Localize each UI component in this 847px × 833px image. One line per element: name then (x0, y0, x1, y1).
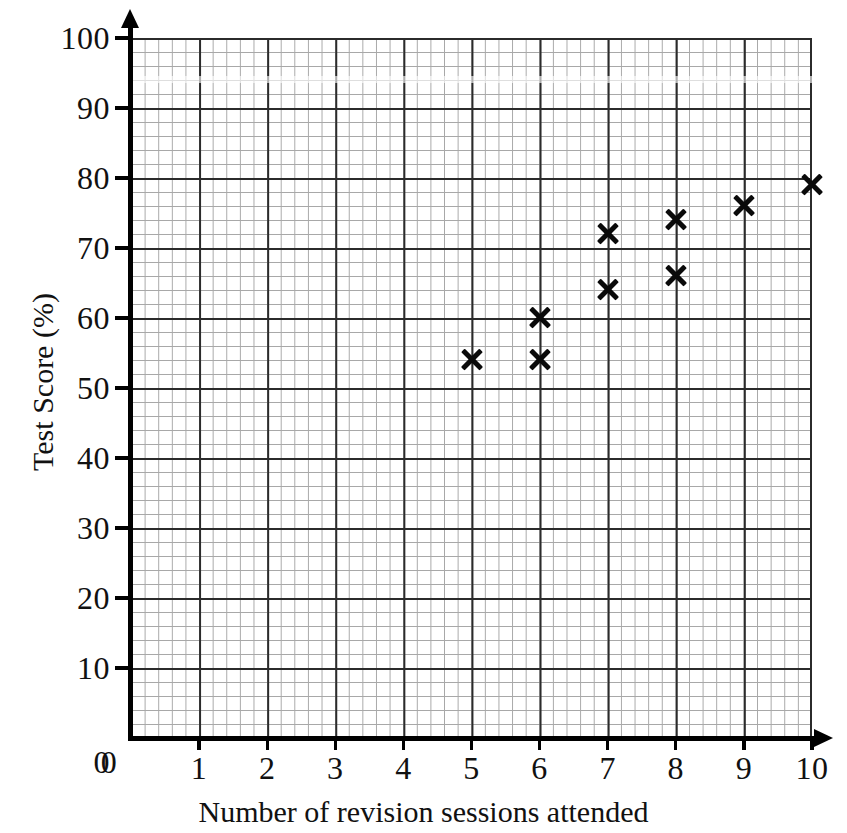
y-axis-tick (115, 36, 129, 39)
y-axis-tick (115, 386, 129, 389)
y-axis-tick-label: 10 (0, 652, 110, 684)
major-gridlines (131, 38, 812, 738)
x-axis-title: Number of revision sessions attended (0, 795, 847, 829)
x-axis-tick-label: 8 (641, 752, 711, 784)
y-axis-tick-label: 100 (0, 22, 110, 54)
x-axis-line (128, 736, 820, 741)
y-axis-tick (115, 456, 129, 459)
y-axis-tick (115, 106, 129, 109)
data-point-marker[interactable] (663, 207, 689, 233)
data-point-marker[interactable] (527, 305, 553, 331)
x-axis-tick (197, 737, 200, 750)
x-axis-tick-label: 3 (300, 752, 370, 784)
minor-gridlines (131, 38, 812, 738)
x-axis-tick (810, 737, 813, 750)
x-axis-tick-label: 4 (368, 752, 438, 784)
x-axis-arrow-icon (814, 729, 833, 747)
data-point-marker[interactable] (595, 277, 621, 303)
grid-right-edge (810, 38, 812, 738)
data-point-marker[interactable] (459, 347, 485, 373)
x-axis-tick (674, 737, 677, 750)
scatter-plot-figure: 0102030405060708090100 012345678910 Numb… (0, 0, 847, 833)
x-axis-tick (538, 737, 541, 750)
y-axis-tick (115, 596, 129, 599)
y-axis-tick-label: 80 (0, 162, 110, 194)
x-axis-tick (334, 737, 337, 750)
data-point-marker[interactable] (663, 263, 689, 289)
y-axis-title: Test Score (%) (26, 212, 60, 552)
y-axis-arrow-icon (121, 9, 139, 28)
data-point-marker[interactable] (731, 193, 757, 219)
data-point-marker[interactable] (799, 172, 825, 198)
x-axis-tick (266, 737, 269, 750)
y-axis-tick (115, 526, 129, 529)
y-axis-tick-label: 20 (0, 582, 110, 614)
x-axis-tick-label: 10 (777, 752, 847, 784)
scan-artifact (131, 76, 812, 83)
y-axis-tick (115, 176, 129, 179)
y-axis-line (128, 24, 133, 740)
x-axis-tick-label: 2 (232, 752, 302, 784)
x-axis-tick-label: 0 (74, 746, 144, 778)
y-axis-tick (115, 666, 129, 669)
plot-area (131, 38, 812, 738)
x-axis-tick-label: 6 (505, 752, 575, 784)
y-axis-tick-label: 90 (0, 92, 110, 124)
y-axis-tick (115, 246, 129, 249)
data-point-marker[interactable] (595, 221, 621, 247)
x-axis-tick (470, 737, 473, 750)
data-point-marker[interactable] (527, 347, 553, 373)
x-axis-tick-label: 9 (709, 752, 779, 784)
x-axis-tick-label: 5 (437, 752, 507, 784)
y-axis-tick (115, 316, 129, 319)
x-axis-tick (606, 737, 609, 750)
x-axis-tick (742, 737, 745, 750)
x-axis-tick-label: 1 (164, 752, 234, 784)
x-axis-tick-label: 7 (573, 752, 643, 784)
x-axis-tick (402, 737, 405, 750)
